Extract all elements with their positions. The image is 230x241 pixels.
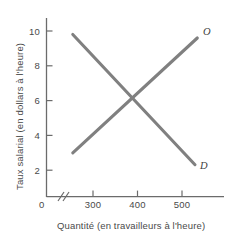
x-tick-label-400: 400 — [123, 199, 153, 210]
origin-label: 0 — [39, 199, 44, 210]
y-tick-label-10: 10 — [22, 26, 40, 37]
supply-curve-label: O — [203, 26, 211, 37]
x-axis-title: Quantité (en travailleurs à l'heure) — [57, 220, 205, 231]
y-axis-title: Taux salarial (en dollars à l'heure) — [14, 43, 25, 190]
labor-market-chart: 10 8 6 4 2 0 300 400 500 O D Taux salari… — [0, 0, 230, 241]
x-axis-ticks — [93, 191, 182, 197]
demand-curve-label: D — [200, 160, 208, 171]
demand-curve — [73, 35, 195, 165]
x-tick-label-300: 300 — [78, 199, 108, 210]
x-tick-label-500: 500 — [167, 199, 197, 210]
y-axis-ticks — [47, 31, 53, 170]
